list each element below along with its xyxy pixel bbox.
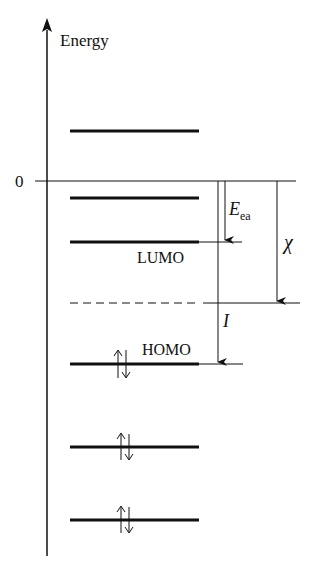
lumo-label: LUMO [137, 249, 184, 266]
electronegativity-label: χ [282, 231, 294, 254]
energy-axis [42, 18, 52, 556]
zero-label: 0 [15, 172, 24, 191]
homo-label: HOMO [142, 341, 191, 358]
axis-arrow-icon [42, 18, 52, 32]
electron-affinity-label: Eea [228, 199, 251, 223]
ionization-energy-label: I [222, 311, 230, 331]
energy-level-diagram: Energy 0 LUMO HOMO Eea [0, 0, 326, 568]
axis-label: Energy [60, 31, 109, 50]
